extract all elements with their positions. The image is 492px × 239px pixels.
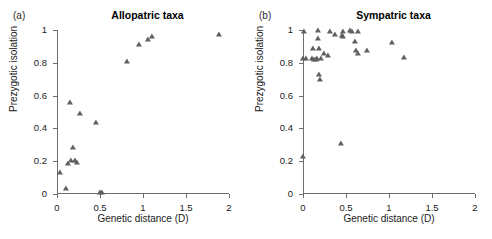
panel-allopatric: (a) Allopatric taxa Prezygotic isolation… <box>0 0 246 239</box>
plot-area: 00.20.40.60.81 00.511.52 <box>303 30 475 194</box>
x-tick: 0.5 <box>346 194 347 198</box>
x-tick: 1 <box>389 194 390 198</box>
panel-title: Sympatric taxa <box>306 9 481 21</box>
scatter-marker <box>148 34 154 39</box>
y-tick: 0.8 <box>53 63 57 64</box>
x-tick: 2 <box>229 194 230 198</box>
scatter-marker <box>340 34 346 39</box>
x-tick: 0 <box>57 194 58 198</box>
scatter-marker <box>93 119 99 124</box>
scatter-marker <box>301 28 307 33</box>
y-tick: 0.2 <box>299 161 303 162</box>
scatter-marker <box>364 47 370 52</box>
x-tick: 1.5 <box>186 194 187 198</box>
y-tick-label: 0.2 <box>280 156 293 166</box>
y-tick-label: 0 <box>42 189 47 199</box>
scatter-marker <box>67 100 73 105</box>
y-tick-label: 0.8 <box>280 58 293 68</box>
scatter-marker <box>318 55 324 60</box>
x-tick-label: 0 <box>54 203 59 213</box>
y-tick-label: 1 <box>288 25 293 35</box>
scatter-marker <box>332 32 338 37</box>
panel-title: Allopatric taxa <box>60 9 235 21</box>
panel-letter: (a) <box>13 11 25 21</box>
x-tick-label: 1 <box>386 203 391 213</box>
y-tick: 0.6 <box>53 96 57 97</box>
panel-sympatric: (b) Sympatric taxa Prezygotic isolation … <box>246 0 492 239</box>
x-tick-label: 2 <box>226 203 231 213</box>
scatter-marker <box>355 50 361 55</box>
y-axis-title: Prezygotic isolation <box>254 26 265 112</box>
scatter-marker <box>74 159 80 164</box>
x-tick-label: 2 <box>472 203 477 213</box>
x-tick: 1.5 <box>432 194 433 198</box>
scatter-marker <box>317 77 323 82</box>
y-tick-label: 0.6 <box>34 91 47 101</box>
x-tick-label: 1 <box>140 203 145 213</box>
y-axis-title: Prezygotic isolation <box>8 26 19 112</box>
x-tick-label: 0.5 <box>339 203 352 213</box>
scatter-marker <box>355 28 361 33</box>
scatter-marker <box>315 27 321 32</box>
scatter-marker <box>351 39 357 44</box>
x-axis-title: Genetic distance (D) <box>57 213 229 224</box>
x-tick: 1 <box>143 194 144 198</box>
scatter-marker <box>389 40 395 45</box>
y-tick-label: 0.2 <box>34 156 47 166</box>
x-tick: 0 <box>303 194 304 198</box>
figure-container: (a) Allopatric taxa Prezygotic isolation… <box>0 0 492 239</box>
panel-letter: (b) <box>259 11 271 21</box>
y-tick-label: 0.4 <box>34 123 47 133</box>
scatter-marker <box>300 154 306 159</box>
scatter-marker <box>124 59 130 64</box>
scatter-marker <box>136 41 142 46</box>
x-tick-label: 1.5 <box>179 203 192 213</box>
scatter-marker <box>63 186 69 191</box>
scatter-marker <box>77 111 83 116</box>
x-axis-title: Genetic distance (D) <box>303 213 475 224</box>
y-tick-label: 0.4 <box>280 123 293 133</box>
x-tick-label: 0.5 <box>93 203 106 213</box>
scatter-marker <box>338 141 344 146</box>
x-tick-label: 1.5 <box>425 203 438 213</box>
y-tick-label: 0 <box>288 189 293 199</box>
y-tick: 0.6 <box>299 96 303 97</box>
scatter-marker <box>216 32 222 37</box>
scatter-marker <box>401 54 407 59</box>
y-tick-label: 0.6 <box>280 91 293 101</box>
scatter-marker <box>99 190 105 195</box>
y-tick: 0.4 <box>53 128 57 129</box>
y-tick: 0.8 <box>299 63 303 64</box>
y-tick-label: 1 <box>42 25 47 35</box>
scatter-marker <box>57 169 63 174</box>
scatter-marker <box>325 53 331 58</box>
x-tick: 2 <box>475 194 476 198</box>
y-tick-label: 0.8 <box>34 58 47 68</box>
scatter-marker <box>70 145 76 150</box>
plot-area: 00.20.40.60.81 00.511.52 <box>57 30 229 194</box>
y-tick: 0.4 <box>299 128 303 129</box>
scatter-marker <box>315 36 321 41</box>
y-tick: 0.2 <box>53 161 57 162</box>
x-tick-label: 0 <box>300 203 305 213</box>
y-tick: 1 <box>53 30 57 31</box>
